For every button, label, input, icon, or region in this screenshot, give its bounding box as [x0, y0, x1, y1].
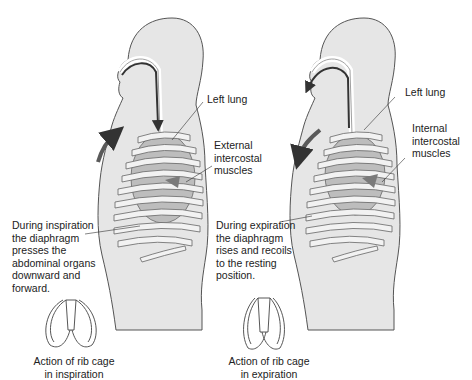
rib-cage-inspiration-icon — [46, 300, 96, 347]
inspiration-diaphragm-label: During inspiration the diaphragm presses… — [12, 219, 95, 294]
expiration-torso-figure — [280, 18, 405, 330]
inspiration-torso-figure — [85, 18, 212, 330]
left-lung-label-expiration: Left lung — [405, 86, 445, 99]
internal-intercostal-label: Internal intercostal muscles — [412, 122, 460, 160]
rib-cage-expiration-icon — [244, 298, 285, 349]
rib-cage-expiration-caption: Action of rib cage in expiration — [219, 355, 319, 380]
left-lung-label-inspiration: Left lung — [207, 93, 247, 106]
rib-cage-inspiration-caption: Action of rib cage in inspiration — [24, 355, 124, 380]
external-intercostal-label: External intercostal muscles — [214, 139, 262, 177]
expiration-diaphragm-label: During expiration the diaphragm rises an… — [216, 219, 295, 282]
